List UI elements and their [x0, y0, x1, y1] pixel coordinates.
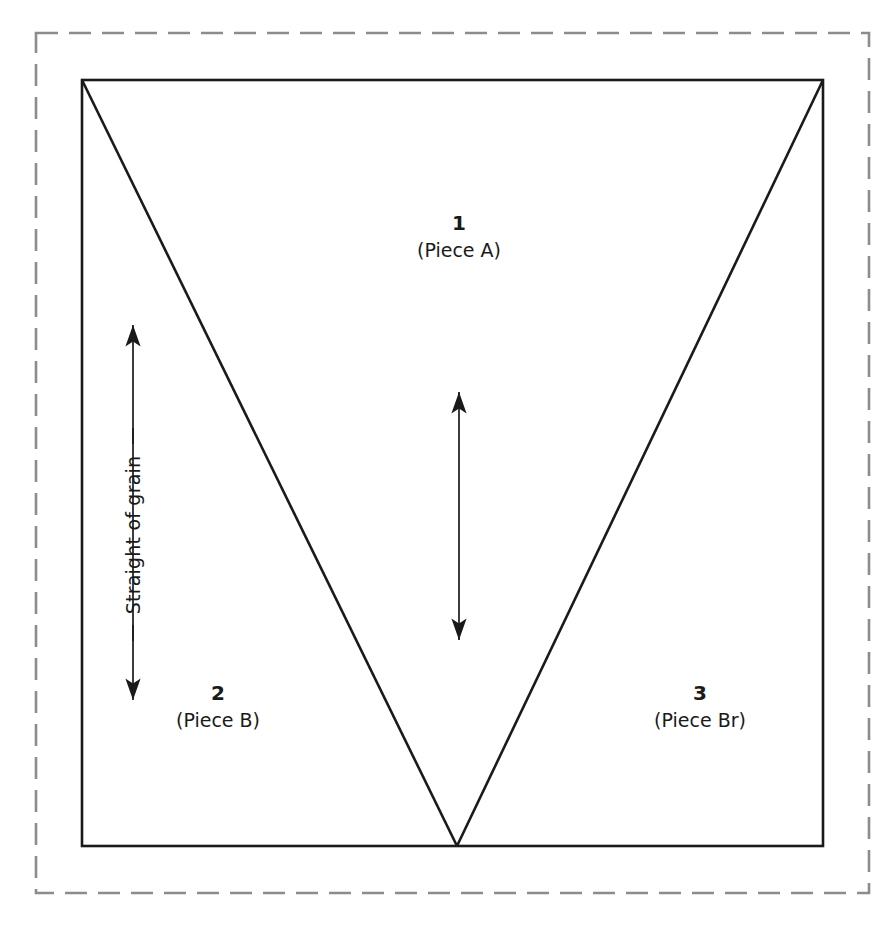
fabric-solid-rectangle — [82, 80, 823, 846]
straight-of-grain-label: Straight of grain — [122, 456, 144, 614]
diagram-canvas: Straight of grain 1 (Piece A) 2 (Piece B… — [0, 0, 896, 927]
